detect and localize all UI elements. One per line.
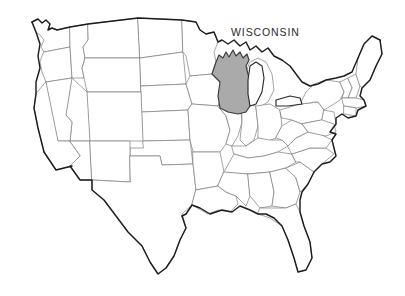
state-new-mexico[interactable] <box>90 141 130 182</box>
state-polygons-group <box>32 18 382 274</box>
state-wyoming[interactable] <box>82 58 141 92</box>
state-label-wisconsin: WISCONSIN <box>231 26 300 38</box>
state-oregon[interactable] <box>40 47 72 82</box>
us-map-figure: WISCONSIN <box>0 0 405 296</box>
state-alabama[interactable] <box>248 172 274 208</box>
state-kansas[interactable] <box>142 110 190 141</box>
great-lakes-group <box>248 62 302 106</box>
state-colorado[interactable] <box>87 92 143 141</box>
state-south-dakota[interactable] <box>140 52 186 86</box>
state-north-dakota[interactable] <box>138 18 183 58</box>
lake-erie-ontario <box>276 96 302 106</box>
state-connecticut[interactable] <box>344 106 356 116</box>
us-map-svg <box>0 0 405 296</box>
state-nebraska[interactable] <box>141 84 192 112</box>
